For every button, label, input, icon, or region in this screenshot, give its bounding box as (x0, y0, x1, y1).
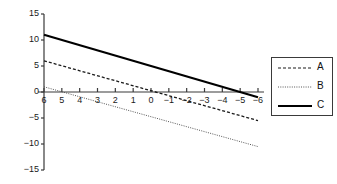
series-line-c (44, 35, 258, 97)
y-tick-label: 5 (13, 61, 39, 70)
y-tick-label: −15 (13, 165, 39, 174)
line-chart: 151050−5−10−156543210−1−2−3−4−5−6 A B C (0, 0, 337, 184)
legend-sample-a (277, 63, 313, 73)
y-tick-label: −5 (13, 113, 39, 122)
x-tick-label: −6 (248, 96, 268, 105)
series-line-a (44, 61, 258, 121)
legend-item-b: B (272, 78, 334, 97)
y-tick-label: 15 (13, 9, 39, 18)
legend-item-c: C (272, 97, 334, 116)
legend-label-b: B (317, 80, 324, 92)
y-tick-label: −10 (13, 139, 39, 148)
legend-label-c: C (317, 99, 324, 111)
legend-sample-c (277, 101, 313, 111)
y-tick-label: 10 (13, 35, 39, 44)
legend-item-a: A (272, 59, 334, 78)
y-tick-label: 0 (13, 87, 39, 96)
legend-label-a: A (317, 61, 324, 73)
chart-legend: A B C (271, 57, 333, 116)
legend-sample-b (277, 82, 313, 92)
